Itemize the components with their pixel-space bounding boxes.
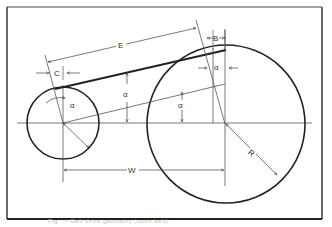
label-alpha-right: α [178, 101, 183, 110]
label-e: E [118, 41, 123, 50]
label-b: B [213, 34, 218, 43]
small-radius [63, 123, 89, 148]
label-alpha-small: α [70, 101, 75, 110]
label-c: C [54, 69, 60, 78]
perpendicular-small [45, 55, 63, 123]
figure-caption: Fig. — Belt drive geometry (open belt) [48, 218, 168, 224]
label-alpha-middle: α [123, 90, 128, 99]
perpendicular-large [196, 20, 225, 124]
belt-drive-diagram: E C B α α α α W R [0, 0, 332, 227]
label-alpha-large: α [214, 63, 219, 72]
belt-tangent [55, 50, 226, 89]
parallel-reference-line [63, 84, 225, 123]
label-w: W [128, 166, 136, 175]
figure-frame [7, 7, 322, 219]
